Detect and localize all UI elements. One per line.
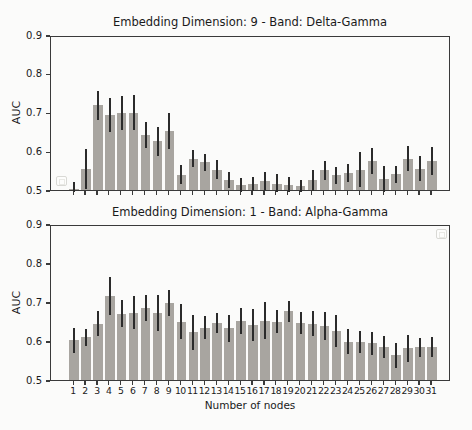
y-tick-mark: [46, 224, 50, 225]
error-bar-node-10: [180, 304, 182, 339]
x-tick-mark: [299, 191, 300, 195]
x-tick-mark: [287, 191, 288, 195]
error-bar-node-10: [180, 165, 182, 184]
x-tick-mark: [347, 381, 348, 385]
x-tick-mark: [73, 191, 74, 195]
error-bar-node-4: [109, 277, 111, 314]
x-tick-mark: [383, 381, 384, 385]
x-tick-mark: [395, 381, 396, 385]
error-bar-node-11: [192, 150, 194, 167]
x-tick-mark: [132, 191, 133, 195]
error-bar-node-6: [133, 95, 135, 131]
y-tick-label: 0.6: [18, 146, 42, 157]
y-tick-label: 0.8: [18, 68, 42, 79]
error-bar-node-5: [121, 96, 123, 129]
x-tick-mark: [299, 381, 300, 385]
x-tick-mark: [263, 381, 264, 385]
error-bar-node-2: [85, 329, 87, 346]
chart-2-plot-area: [50, 225, 450, 381]
error-bar-node-21: [312, 170, 314, 192]
x-tick-mark: [359, 381, 360, 385]
x-tick-mark: [204, 191, 205, 195]
x-tick-mark: [251, 381, 252, 385]
error-bar-node-31: [431, 147, 433, 174]
error-bar-node-18: [276, 310, 278, 333]
error-bar-node-26: [371, 332, 373, 355]
error-bar-node-3: [97, 311, 99, 337]
x-tick-mark: [144, 191, 145, 195]
error-bar-node-3: [97, 91, 99, 120]
x-tick-mark: [359, 191, 360, 195]
x-tick-mark: [371, 381, 372, 385]
error-bar-node-17: [264, 172, 266, 191]
error-bar-node-5: [121, 300, 123, 327]
x-tick-mark: [156, 191, 157, 195]
error-bar-node-8: [157, 295, 159, 331]
error-bar-node-30: [419, 338, 421, 357]
error-bar-node-18: [276, 174, 278, 192]
x-tick-mark: [168, 191, 169, 195]
y-tick-label: 0.9: [18, 219, 42, 230]
y-tick-label: 0.7: [18, 297, 42, 308]
x-tick-mark: [251, 191, 252, 195]
legend-swatch-icon: [439, 232, 445, 238]
error-bar-node-14: [228, 172, 230, 188]
x-tick-mark: [96, 191, 97, 195]
y-tick-mark: [46, 113, 50, 114]
error-bar-node-25: [359, 152, 361, 187]
x-tick-mark: [132, 381, 133, 385]
error-bar-node-24: [347, 164, 349, 182]
error-bar-node-19: [288, 301, 290, 322]
error-bar-node-31: [431, 337, 433, 357]
y-tick-mark: [46, 190, 50, 191]
error-bar-node-14: [228, 315, 230, 342]
x-tick-mark: [311, 191, 312, 195]
x-tick-mark: [407, 381, 408, 385]
error-bar-node-26: [371, 148, 373, 174]
chart-2-legend-box: [436, 229, 447, 239]
error-bar-node-12: [204, 316, 206, 339]
y-tick-label: 0.5: [18, 375, 42, 386]
x-tick-mark: [73, 381, 74, 385]
x-tick-mark: [192, 381, 193, 385]
error-bar-node-24: [347, 329, 349, 354]
error-bar-node-28: [395, 343, 397, 368]
x-tick-mark: [347, 191, 348, 195]
y-tick-mark: [46, 74, 50, 75]
error-bar-node-1: [73, 328, 75, 353]
x-tick-mark: [418, 191, 419, 195]
error-bar-node-12: [204, 154, 206, 171]
x-tick-mark: [418, 381, 419, 385]
error-bar-node-27: [383, 166, 385, 192]
x-tick-mark: [84, 381, 85, 385]
chart-2-title: Embedding Dimension: 1 - Band: Alpha-Gam…: [50, 205, 450, 219]
chart-1-plot-area: [50, 36, 450, 191]
x-tick-mark: [287, 381, 288, 385]
y-tick-label: 0.5: [18, 185, 42, 196]
x-tick-mark: [108, 191, 109, 195]
x-tick-mark: [216, 191, 217, 195]
y-tick-label: 0.6: [18, 336, 42, 347]
x-tick-mark: [323, 191, 324, 195]
chart-1-title: Embedding Dimension: 9 - Band: Delta-Gam…: [50, 15, 450, 29]
x-tick-mark: [323, 381, 324, 385]
error-bar-node-19: [288, 177, 290, 192]
error-bar-node-23: [335, 167, 337, 184]
figure: Embedding Dimension: 9 - Band: Delta-Gam…: [0, 0, 472, 430]
error-bar-node-4: [109, 98, 111, 132]
error-bar-node-7: [145, 122, 147, 148]
x-tick-label: 31: [424, 385, 438, 396]
y-tick-label: 0.9: [18, 30, 42, 41]
x-tick-mark: [180, 191, 181, 195]
x-tick-mark: [108, 381, 109, 385]
error-bar-node-22: [324, 312, 326, 340]
error-bar-node-8: [157, 127, 159, 156]
error-bar-node-21: [312, 311, 314, 336]
error-bar-node-15: [240, 178, 242, 192]
x-tick-mark: [395, 191, 396, 195]
x-tick-mark: [228, 381, 229, 385]
error-bar-node-13: [216, 160, 218, 179]
error-bar-node-20: [300, 312, 302, 334]
x-tick-mark: [335, 381, 336, 385]
x-tick-mark: [263, 191, 264, 195]
